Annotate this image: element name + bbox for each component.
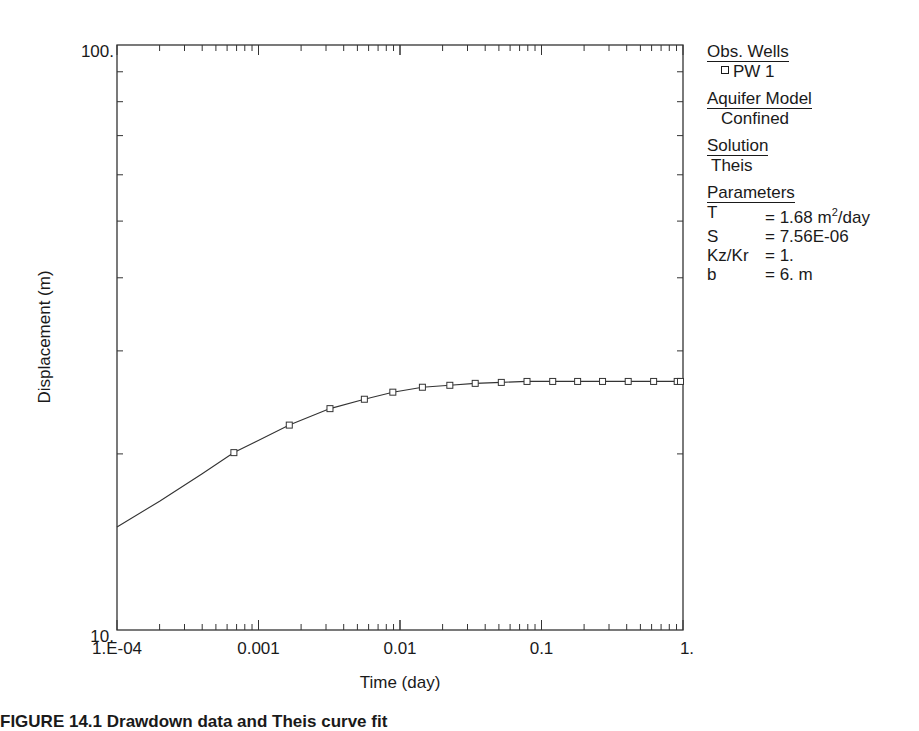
pw1-observation-markers [231, 378, 684, 455]
parameter-value: = 6. m [765, 265, 813, 284]
square-marker-icon [721, 66, 729, 74]
parameter-key: T [707, 203, 765, 227]
parameter-value: = 7.56E-06 [765, 227, 849, 246]
data-point-marker [524, 378, 530, 384]
legend-panel: Obs. Wells PW 1 Aquifer Model Confined S… [707, 42, 870, 292]
legend-aquifer-title: Aquifer Model [707, 90, 812, 109]
legend-obs-wells: Obs. Wells PW 1 [707, 42, 870, 81]
legend-solution: Solution Theis [707, 136, 870, 175]
legend-obs-well-name: PW 1 [733, 62, 775, 81]
data-point-marker [550, 378, 556, 384]
data-point-marker [575, 378, 581, 384]
svg-text:0.01: 0.01 [383, 639, 416, 658]
legend-solution-title: Solution [707, 137, 768, 156]
legend-obs-wells-title: Obs. Wells [707, 43, 789, 62]
y-axis-tick-labels: 10.100. [81, 42, 114, 646]
data-point-marker [600, 378, 606, 384]
parameter-list: T= 1.68 m2/dayS= 7.56E-06Kz/Kr= 1.b= 6. … [707, 203, 870, 284]
x-axis-ticks [117, 45, 683, 630]
plot-frame [117, 45, 683, 630]
x-axis-tick-labels: 1.E-040.0010.010.11. [92, 639, 694, 658]
parameter-key: S [707, 227, 765, 246]
svg-text:10.: 10. [90, 627, 114, 646]
legend-solution-value: Theis [707, 156, 870, 175]
legend-aquifer-value: Confined [707, 109, 870, 128]
y-axis-ticks [117, 72, 683, 454]
parameter-row: b= 6. m [707, 265, 870, 284]
data-point-marker [677, 378, 683, 384]
data-point-marker [498, 379, 504, 385]
parameter-value: = 1. [765, 246, 794, 265]
svg-text:100.: 100. [81, 42, 114, 61]
parameter-key: Kz/Kr [707, 246, 765, 265]
data-point-marker [625, 378, 631, 384]
svg-text:1.: 1. [680, 639, 694, 658]
data-point-marker [447, 382, 453, 388]
y-axis-label: Displacement (m) [35, 270, 54, 403]
svg-text:0.001: 0.001 [237, 639, 280, 658]
legend-parameters-title: Parameters [707, 184, 795, 203]
svg-text:0.1: 0.1 [530, 639, 554, 658]
theis-fit-curve [117, 381, 683, 527]
data-point-marker [327, 406, 333, 412]
data-point-marker [419, 384, 425, 390]
data-point-marker [390, 389, 396, 395]
parameter-row: T= 1.68 m2/day [707, 203, 870, 227]
parameter-row: S= 7.56E-06 [707, 227, 870, 246]
data-point-marker [651, 378, 657, 384]
figure-caption: FIGURE 14.1 Drawdown data and Theis curv… [0, 712, 387, 731]
data-point-marker [231, 450, 237, 456]
parameter-value: = 1.68 m2/day [765, 203, 870, 227]
parameter-key: b [707, 265, 765, 284]
legend-aquifer-model: Aquifer Model Confined [707, 89, 870, 128]
data-point-marker [286, 422, 292, 428]
data-point-marker [472, 380, 478, 386]
legend-parameters: Parameters T= 1.68 m2/dayS= 7.56E-06Kz/K… [707, 183, 870, 284]
data-point-marker [361, 396, 367, 402]
parameter-row: Kz/Kr= 1. [707, 246, 870, 265]
x-axis-label: Time (day) [360, 673, 441, 692]
